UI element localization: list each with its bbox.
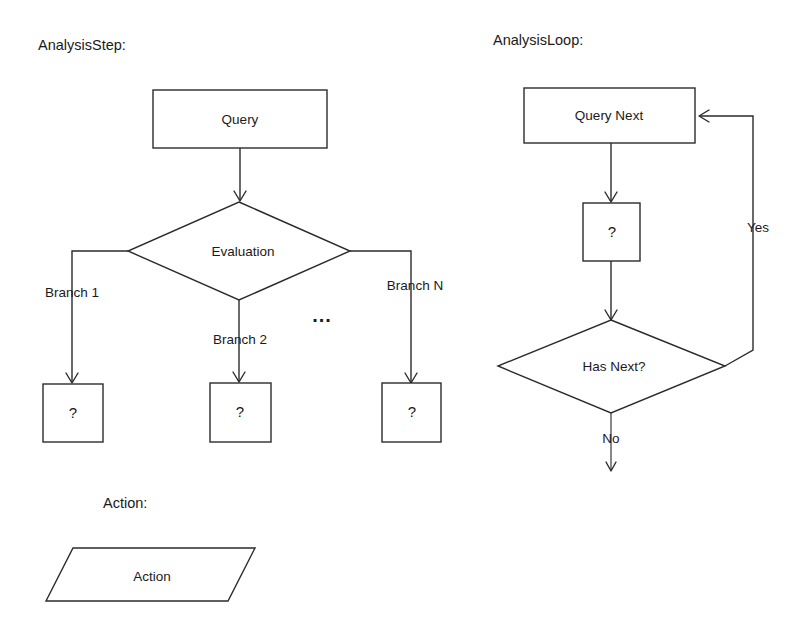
analysis-step-section-title: AnalysisStep: xyxy=(38,37,126,53)
query-next-node-label: Query Next xyxy=(575,108,644,123)
edge-label-yes: Yes xyxy=(747,220,769,235)
branch-1-target-label: ? xyxy=(69,404,77,421)
edge-branch-1 xyxy=(72,251,128,382)
edge-label-branch-1: Branch 1 xyxy=(45,285,99,300)
diagram-canvas: AnalysisStep: Query Evaluation Branch 1 … xyxy=(0,0,802,644)
edge-yes-loop-back xyxy=(700,116,753,366)
flowchart-diagram: AnalysisStep: Query Evaluation Branch 1 … xyxy=(0,0,802,644)
loop-step-placeholder-label: ? xyxy=(608,223,616,240)
edge-branch-n xyxy=(350,251,411,382)
branch-ellipsis-label: ... xyxy=(312,304,332,326)
action-node-label: Action xyxy=(133,569,171,584)
branch-n-target-label: ? xyxy=(408,403,416,420)
branch-2-target-label: ? xyxy=(236,403,244,420)
evaluation-node-label: Evaluation xyxy=(211,244,274,259)
edge-label-branch-n: Branch N xyxy=(387,278,443,293)
analysis-loop-section-title: AnalysisLoop: xyxy=(493,32,583,48)
has-next-node-label: Has Next? xyxy=(582,359,645,374)
query-node-label: Query xyxy=(222,112,259,127)
action-section-title: Action: xyxy=(103,495,147,511)
edge-label-branch-2: Branch 2 xyxy=(213,332,267,347)
edge-label-no: No xyxy=(602,431,619,446)
